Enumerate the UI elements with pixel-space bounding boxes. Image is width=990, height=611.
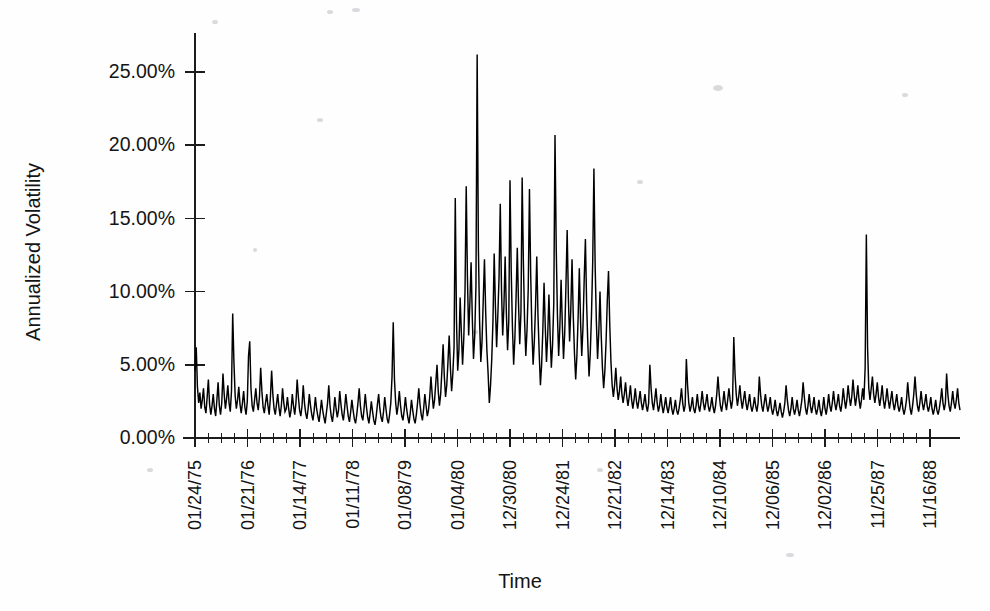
- scan-speck: [327, 10, 333, 14]
- x-axis-tick-label: 11/16/88: [920, 460, 940, 529]
- scan-speck: [637, 180, 643, 184]
- scan-noise-layer: [147, 8, 908, 557]
- x-axis-tick-label: 12/24/81: [553, 460, 573, 530]
- scan-speck: [147, 468, 153, 472]
- scan-speck: [253, 248, 257, 252]
- x-axis-title: Time: [498, 570, 542, 592]
- volatility-chart-figure: 0.00%5.00%10.00%15.00%20.00%25.00% 01/24…: [0, 0, 990, 611]
- scan-speck: [786, 553, 794, 557]
- x-axis-tick-label: 12/30/80: [500, 460, 520, 530]
- scan-speck: [902, 93, 908, 97]
- x-axis-tick-label: 01/11/78: [343, 460, 363, 529]
- x-axis-tick-label: 12/21/82: [605, 460, 625, 530]
- x-axis-tick-label: 12/06/85: [763, 460, 783, 530]
- x-axis-tick-label: 12/02/86: [815, 460, 835, 530]
- y-axis-tick-label: 5.00%: [120, 353, 175, 375]
- y-axis-tick-label: 15.00%: [109, 207, 175, 229]
- x-axis-tick-label: 12/14/83: [658, 460, 678, 530]
- x-axis-tick-label: 01/21/76: [238, 460, 258, 530]
- scan-speck: [352, 8, 360, 12]
- x-axis-tick-label: 01/08/79: [395, 460, 415, 530]
- y-axis-tick-label: 20.00%: [109, 133, 175, 155]
- x-axis-tick-label: 01/04/80: [448, 460, 468, 530]
- x-axis-tick-label: 01/14/77: [290, 460, 310, 530]
- x-axis-tick-label: 11/25/87: [868, 460, 888, 529]
- scan-speck: [713, 85, 723, 91]
- y-axis-title: Annualized Volatility: [22, 163, 44, 341]
- y-axis: 0.00%5.00%10.00%15.00%20.00%25.00%: [109, 33, 205, 448]
- scan-speck: [212, 20, 218, 24]
- y-axis-tick-label: 0.00%: [120, 426, 175, 448]
- x-axis-tick-label: 12/10/84: [710, 460, 730, 530]
- scan-speck: [317, 118, 323, 122]
- x-axis: 01/24/7501/21/7601/14/7701/11/7801/08/79…: [183, 429, 960, 530]
- x-axis-tick-label: 01/24/75: [185, 460, 205, 530]
- chart-canvas: 0.00%5.00%10.00%15.00%20.00%25.00% 01/24…: [0, 0, 990, 611]
- y-axis-tick-label: 25.00%: [109, 60, 175, 82]
- volatility-series-line: [195, 54, 960, 424]
- scan-speck: [597, 468, 603, 472]
- y-axis-tick-label: 10.00%: [109, 280, 175, 302]
